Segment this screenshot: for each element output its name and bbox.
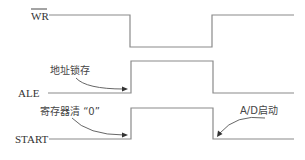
timing-diagram: WR ALE START 地址锁存 寄存器清 “0” A/D启动	[0, 0, 305, 160]
annotation-label: 地址锁存	[50, 64, 90, 76]
annotation-ad-start: A/D启动	[217, 104, 278, 137]
annotation-label: A/D启动	[240, 104, 278, 116]
annotation-label: 寄存器清 “0”	[40, 105, 100, 117]
signal-label-wr: WR	[31, 10, 49, 22]
signal-wr: WR	[31, 9, 294, 47]
annotation-register-clear: 寄存器清 “0”	[40, 105, 128, 138]
annotation-address-latch: 地址锁存	[50, 64, 128, 92]
arrow-right-icon	[122, 87, 128, 92]
annotation-curve	[220, 117, 265, 133]
annotation-curve	[72, 118, 124, 135]
waveform-wr	[49, 15, 294, 47]
arrow-right-icon	[122, 133, 128, 138]
signal-label-start: START	[15, 133, 49, 145]
signal-label-ale: ALE	[18, 87, 40, 99]
annotation-curve	[76, 78, 124, 89]
